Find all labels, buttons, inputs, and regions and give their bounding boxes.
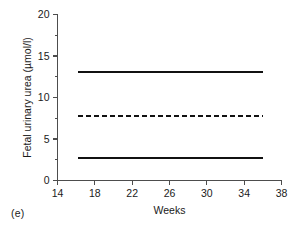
- x-tick-label-22: 22: [126, 187, 138, 199]
- x-tick-label-30: 30: [201, 187, 213, 199]
- y-tick-label-5: 5: [44, 133, 50, 145]
- x-tick-label-14: 14: [52, 187, 64, 199]
- x-tick-label-18: 18: [89, 187, 101, 199]
- y-tick-label-20: 20: [38, 8, 50, 20]
- x-tick-label-34: 34: [238, 187, 250, 199]
- x-tick-label-26: 26: [164, 187, 176, 199]
- x-tick-label-38: 38: [276, 187, 288, 199]
- y-axis-title: Fetal urinary urea (µmol/l): [21, 37, 33, 157]
- panel-label: (e): [11, 207, 24, 219]
- figure-panel: 0510152014182226303438WeeksFetal urinary…: [0, 0, 303, 233]
- y-tick-label-10: 10: [38, 91, 50, 103]
- x-axis-title: Weeks: [154, 204, 186, 216]
- chart-canvas: 0510152014182226303438WeeksFetal urinary…: [0, 0, 303, 233]
- y-tick-label-0: 0: [44, 174, 50, 186]
- y-tick-label-15: 15: [38, 50, 50, 62]
